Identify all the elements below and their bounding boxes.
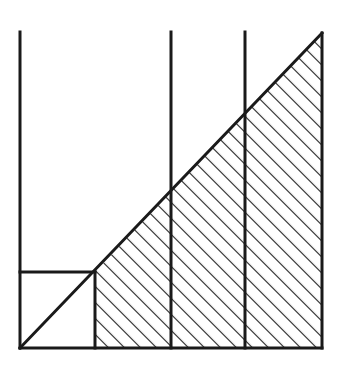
figure-container xyxy=(0,0,343,371)
triangle-diagram-svg xyxy=(0,0,343,371)
